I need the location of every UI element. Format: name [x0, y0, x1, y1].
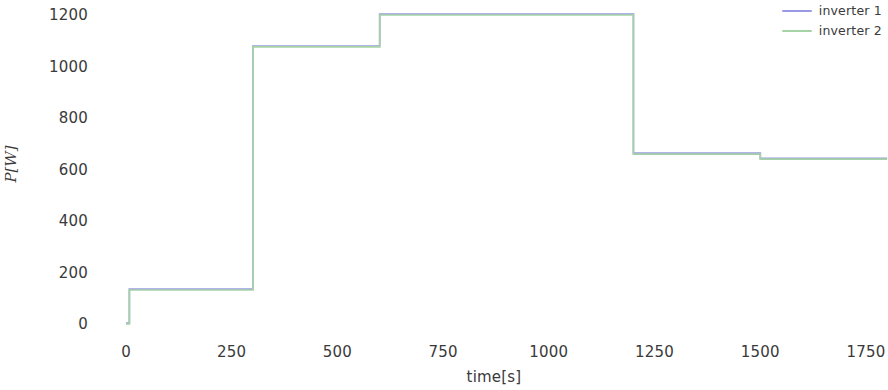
series-line-1	[126, 14, 887, 323]
x-tick-label: 0	[121, 343, 131, 361]
x-tick-label: 1000	[529, 343, 568, 361]
x-tick-label: 750	[429, 343, 458, 361]
series-canvas	[0, 0, 888, 340]
legend-label: inverter 2	[819, 23, 882, 38]
legend-line-swatch-icon	[782, 10, 812, 12]
legend: inverter 1inverter 2	[782, 4, 882, 37]
plot-area	[0, 0, 888, 340]
x-tick-label: 1500	[741, 343, 780, 361]
power-step-chart: P[W] 020040060080010001200 0250500750100…	[0, 0, 888, 390]
legend-item[interactable]: inverter 1	[782, 4, 882, 17]
x-tick-label: 250	[217, 343, 246, 361]
x-axis-label-text: time[s]	[467, 368, 522, 386]
x-tick-label: 500	[323, 343, 352, 361]
legend-line-swatch-icon	[782, 30, 812, 32]
x-tick-label: 1250	[635, 343, 674, 361]
x-tick-label: 1750	[847, 343, 886, 361]
x-axis-tick-labels: 02505007501000125015001750	[0, 343, 888, 365]
x-axis-label: time[s]	[0, 368, 888, 386]
legend-item[interactable]: inverter 2	[782, 24, 882, 37]
legend-label: inverter 1	[819, 3, 882, 18]
series-line-2	[126, 15, 887, 324]
